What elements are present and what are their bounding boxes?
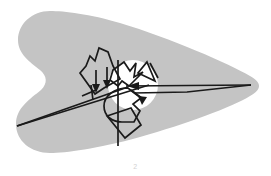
figure-root: 2 [0, 0, 271, 176]
figure-canvas [0, 0, 271, 176]
figure-caption: 2 [0, 162, 271, 171]
